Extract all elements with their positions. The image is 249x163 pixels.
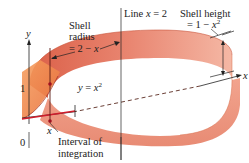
y-axis-label: y	[25, 28, 31, 39]
curve-label: y = x2	[77, 81, 103, 93]
shell-height-equation: = 1 − x2	[187, 18, 221, 30]
shell-radius-label-2: radius	[69, 31, 95, 42]
x-axis-label: x	[242, 70, 248, 81]
tick-label-0: 0	[20, 137, 25, 148]
interval-label-1: Interval of	[58, 136, 103, 147]
shell-radius-equation: = 2 − x	[69, 43, 99, 54]
shell-back-wall	[30, 30, 232, 98]
line-x-2-label: Line x = 2	[124, 8, 167, 19]
tick-label-1: 1	[20, 83, 25, 94]
shell-method-diagram: Shell radius = 2 − x Line x = 2 Shell he…	[0, 0, 249, 163]
shell-radius-label-1: Shell	[69, 20, 91, 31]
interval-label-2: integration	[58, 148, 104, 159]
point-x-label: x	[46, 125, 52, 136]
shell-height-label: Shell height	[180, 8, 231, 19]
